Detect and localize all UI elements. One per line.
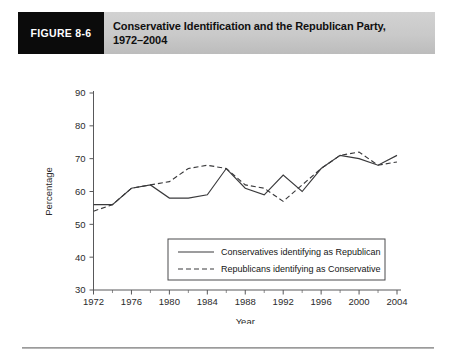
y-axis-tick-marks [90,93,94,290]
figure-title-line-1: Conservative Identification and the Repu… [113,19,435,33]
figure-title-line-2: 1972–2004 [113,33,435,47]
x-tick-label: 1996 [311,296,332,307]
figure-number-label: FIGURE 8-6 [31,27,92,39]
legend-label-conservatives-identifying-as-republican: Conservatives identifying as Republican [221,247,381,257]
x-tick-label: 1988 [235,296,256,307]
figure-header: FIGURE 8-6 Conservative Identification a… [18,12,435,54]
series-line-conservatives-identifying-as-republican [94,155,398,204]
y-tick-label: 70 [75,153,86,164]
x-axis-title: Year [236,316,255,324]
chart-legend: Conservatives identifying as Republican … [168,239,385,280]
x-tick-label: 2004 [386,296,407,307]
y-axis-tick-labels: 30405060708090 [75,87,86,295]
y-axis-title: Percentage [43,167,54,216]
y-tick-label: 30 [75,284,86,295]
series-line-republicans-identifying-as-conservative [94,152,398,211]
figure-number-box: FIGURE 8-6 [18,12,104,54]
x-tick-label: 2000 [348,296,369,307]
x-tick-label: 1972 [83,296,104,307]
legend-label-republicans-identifying-as-conservative: Republicans identifying as Conservative [221,264,381,274]
x-tick-label: 1980 [159,296,180,307]
y-tick-label: 80 [75,120,86,131]
x-axis-tick-marks [94,290,398,295]
figure-title-box: Conservative Identification and the Repu… [104,12,435,54]
x-axis-tick-labels: 197219761980198419881992199620002004 [83,296,408,307]
bottom-divider-rule [22,347,434,349]
y-tick-label: 90 [75,87,86,98]
y-tick-label: 50 [75,219,86,230]
y-tick-label: 60 [75,186,86,197]
chart-figure: 30405060708090 1972197619801984198819921… [0,62,453,324]
x-tick-label: 1992 [273,296,294,307]
line-chart: 30405060708090 1972197619801984198819921… [0,62,453,324]
y-tick-label: 40 [75,252,86,263]
x-tick-label: 1976 [121,296,142,307]
x-tick-label: 1984 [197,296,218,307]
